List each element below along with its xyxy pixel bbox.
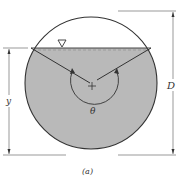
partially-filled-pipe-diagram: θ y D (a) bbox=[0, 0, 177, 181]
water-fill bbox=[20, 48, 170, 158]
arrow-up-icon bbox=[172, 12, 175, 17]
arrow-down-icon bbox=[172, 149, 175, 154]
theta-label: θ bbox=[90, 106, 96, 116]
diameter-label: D bbox=[166, 80, 175, 91]
free-surface-triangle-icon bbox=[58, 40, 66, 47]
figure-caption: (a) bbox=[82, 167, 93, 176]
arrow-down-icon bbox=[8, 149, 11, 154]
depth-label: y bbox=[5, 96, 12, 106]
arrow-up-icon bbox=[8, 49, 11, 54]
